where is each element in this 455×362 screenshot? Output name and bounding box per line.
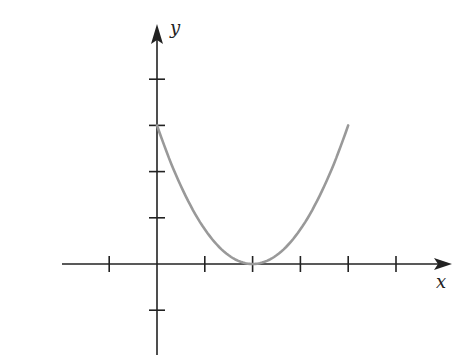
parabola-plot: x y bbox=[0, 0, 455, 362]
parabola-curve bbox=[157, 125, 348, 264]
axes bbox=[62, 24, 452, 355]
y-axis-label: y bbox=[169, 17, 181, 38]
x-axis-label: x bbox=[436, 271, 446, 292]
